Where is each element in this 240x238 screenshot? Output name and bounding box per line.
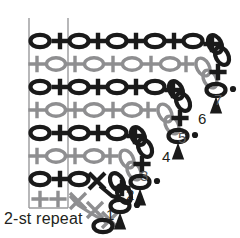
row-number-5: 5 xyxy=(178,129,186,146)
row-number-3: 3 xyxy=(140,167,148,184)
row-number-6: 6 xyxy=(198,110,206,127)
crochet-chart-diagram: 1 2 3 4 5 6 7 2-st repeat xyxy=(0,0,240,238)
row-number-2: 2 xyxy=(126,186,134,203)
row-number-1: 1 xyxy=(106,206,114,223)
row-number-4: 4 xyxy=(162,148,170,165)
stitch-row-4 xyxy=(31,125,155,160)
row-number-7: 7 xyxy=(214,91,222,108)
stitch-row-8 xyxy=(31,33,232,68)
repeat-caption: 2-st repeat xyxy=(4,210,83,228)
